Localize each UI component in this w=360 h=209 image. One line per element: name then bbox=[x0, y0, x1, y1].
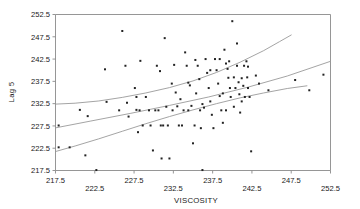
data-point-marker bbox=[234, 87, 236, 89]
data-point-marker bbox=[176, 105, 178, 107]
data-point-marker bbox=[208, 87, 210, 89]
data-point-marker bbox=[206, 72, 208, 74]
scatter-plot-chart: 217.5222.5227.5232.5237.5242.5247.5252.5… bbox=[0, 0, 360, 209]
x-tick-label: 217.5 bbox=[46, 176, 65, 185]
data-point-marker bbox=[217, 83, 219, 85]
x-axis-title: VISCOSITY bbox=[174, 196, 218, 205]
lower-confidence-band bbox=[56, 86, 307, 152]
data-point-marker bbox=[199, 109, 201, 111]
data-point-marker bbox=[219, 95, 221, 97]
data-point-marker bbox=[219, 58, 221, 60]
data-point-marker bbox=[198, 78, 200, 80]
data-point-marker bbox=[154, 109, 156, 111]
data-points bbox=[58, 20, 325, 171]
data-point-marker bbox=[246, 76, 248, 78]
data-point-marker bbox=[294, 79, 296, 81]
data-point-marker bbox=[192, 142, 194, 144]
y-tick-label: 217.5 bbox=[31, 166, 50, 175]
x-tick-label: 247.5 bbox=[282, 176, 301, 185]
data-point-marker bbox=[205, 58, 207, 60]
upper-confidence-band bbox=[56, 35, 291, 104]
data-point-marker bbox=[126, 102, 128, 104]
data-point-marker bbox=[168, 157, 170, 159]
x-tick-label: 227.5 bbox=[125, 176, 144, 185]
data-point-marker bbox=[187, 109, 189, 111]
data-point-marker bbox=[255, 75, 257, 77]
data-point-marker bbox=[231, 20, 233, 22]
data-point-marker bbox=[222, 92, 224, 94]
data-point-marker bbox=[165, 106, 167, 108]
data-point-marker bbox=[139, 109, 141, 111]
data-point-marker bbox=[184, 51, 186, 53]
data-point-marker bbox=[194, 59, 196, 61]
data-point-marker bbox=[197, 65, 199, 67]
data-point-marker bbox=[211, 114, 213, 116]
data-point-marker bbox=[148, 109, 150, 111]
data-point-marker bbox=[227, 77, 229, 79]
data-point-marker bbox=[145, 96, 147, 98]
data-point-marker bbox=[87, 115, 89, 117]
data-point-marker bbox=[201, 169, 203, 171]
data-point-marker bbox=[214, 58, 216, 60]
data-point-marker bbox=[194, 124, 196, 126]
data-point-marker bbox=[227, 68, 229, 70]
data-point-marker bbox=[201, 103, 203, 105]
data-point-marker bbox=[267, 89, 269, 91]
data-point-marker bbox=[160, 124, 162, 126]
data-point-marker bbox=[195, 92, 197, 94]
data-point-marker bbox=[124, 65, 126, 67]
data-point-marker bbox=[241, 77, 243, 79]
data-point-marker bbox=[230, 96, 232, 98]
y-tick-label: 237.5 bbox=[31, 77, 50, 86]
data-point-marker bbox=[250, 150, 252, 152]
data-point-marker bbox=[242, 85, 244, 87]
data-point-marker bbox=[247, 66, 249, 68]
y-tick-label: 232.5 bbox=[31, 99, 50, 108]
data-point-marker bbox=[249, 96, 251, 98]
data-point-marker bbox=[167, 124, 169, 126]
data-point-marker bbox=[245, 60, 247, 62]
data-point-marker bbox=[190, 105, 192, 107]
fitted-curves bbox=[56, 35, 330, 151]
data-point-marker bbox=[175, 92, 177, 94]
data-point-marker bbox=[186, 65, 188, 67]
x-tick-label: 222.5 bbox=[85, 184, 104, 193]
data-point-marker bbox=[222, 122, 224, 124]
data-point-marker bbox=[106, 101, 108, 103]
data-point-marker bbox=[121, 30, 123, 32]
data-point-marker bbox=[187, 82, 189, 84]
y-tick-label: 227.5 bbox=[31, 122, 50, 131]
data-point-marker bbox=[233, 76, 235, 78]
x-axis-tick-labels: 217.5222.5227.5232.5237.5242.5247.5252.5 bbox=[46, 176, 340, 193]
plot-frame bbox=[56, 15, 331, 171]
regression-line bbox=[56, 61, 330, 127]
data-point-marker bbox=[84, 154, 86, 156]
data-point-marker bbox=[223, 49, 225, 51]
data-point-marker bbox=[150, 124, 152, 126]
data-point-marker bbox=[236, 42, 238, 44]
data-point-marker bbox=[243, 65, 245, 67]
data-point-marker bbox=[308, 89, 310, 91]
data-point-marker bbox=[58, 124, 60, 126]
data-point-marker bbox=[200, 127, 202, 129]
y-tick-label: 252.5 bbox=[31, 10, 50, 19]
data-point-marker bbox=[178, 124, 180, 126]
data-point-marker bbox=[118, 109, 120, 111]
data-point-marker bbox=[233, 106, 235, 108]
data-point-marker bbox=[156, 65, 158, 67]
chart-canvas: 217.5222.5227.5232.5237.5242.5247.5252.5… bbox=[0, 0, 360, 209]
x-tick-label: 237.5 bbox=[203, 176, 222, 185]
y-tick-label: 247.5 bbox=[31, 33, 50, 42]
plot-border bbox=[56, 15, 331, 171]
data-point-marker bbox=[104, 68, 106, 70]
data-point-marker bbox=[164, 37, 166, 39]
data-point-marker bbox=[258, 83, 260, 85]
x-tick-label: 242.5 bbox=[242, 184, 261, 193]
data-point-marker bbox=[161, 157, 163, 159]
y-tick-label: 222.5 bbox=[31, 144, 50, 153]
data-point-marker bbox=[212, 127, 214, 129]
data-point-marker bbox=[134, 87, 136, 89]
data-point-marker bbox=[58, 146, 60, 148]
data-point-marker bbox=[239, 112, 241, 114]
data-point-marker bbox=[173, 64, 175, 66]
